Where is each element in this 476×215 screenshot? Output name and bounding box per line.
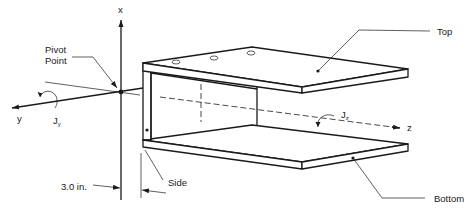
reference-line [45,82,140,95]
moment-jz-label: Jz [341,109,349,121]
dimension-label: 3.0 in. [61,181,87,192]
curved-arrow-icon [38,92,43,97]
bottom-plate [143,125,408,169]
pivot-label-line1: Pivot [45,44,66,55]
moment-jz: Jz [316,109,349,127]
side-callout: Side [145,150,187,188]
bracket-diagram: x y Pivot Point Jy z Jz [0,0,476,215]
curved-arrow-icon [316,122,321,127]
pivot-point-dot [119,90,124,95]
moment-jy: Jy [38,91,61,127]
y-axis: y [12,88,143,124]
side-plate [143,63,151,140]
diagram-canvas: x y Pivot Point Jy z Jz [0,0,476,215]
pivot-label-line2: Point [45,55,67,66]
top-plate [143,47,408,93]
dimension-3in: 3.0 in. [61,153,166,198]
side-label: Side [168,177,187,188]
bottom-callout: Bottom [353,158,464,204]
bottom-label: Bottom [434,193,464,204]
top-label: Top [437,26,452,37]
x-axis-label: x [118,4,123,15]
y-axis-label: y [17,113,22,124]
x-axis: x [118,4,123,200]
pivot-point-callout: Pivot Point [45,44,117,88]
z-axis-label: z [407,122,412,133]
moment-jy-label: Jy [53,115,61,127]
